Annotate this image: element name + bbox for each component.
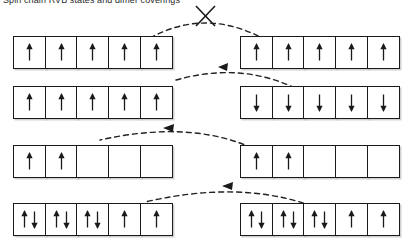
spin-up-arrow-icon — [311, 210, 318, 229]
spin-chain-left[interactable] — [13, 86, 173, 119]
chain-cell[interactable] — [367, 86, 400, 119]
chain-cell[interactable] — [76, 36, 109, 69]
chain-row — [0, 145, 409, 179]
chain-cell[interactable] — [13, 145, 46, 178]
spin-up-arrow-icon — [53, 210, 60, 229]
spin-up-arrow-icon — [89, 93, 96, 112]
chain-cell[interactable] — [13, 36, 46, 69]
diagram-canvas: Spin chain RVB states and dimer covering… — [0, 0, 409, 248]
chain-cell[interactable] — [303, 145, 336, 178]
chain-cell[interactable] — [272, 86, 305, 119]
spin-up-arrow-icon — [58, 152, 65, 171]
chain-cell[interactable] — [76, 145, 109, 178]
chain-cell[interactable] — [240, 203, 273, 236]
chain-cell[interactable] — [335, 86, 368, 119]
chain-cell[interactable] — [303, 36, 336, 69]
spin-up-arrow-icon — [348, 43, 355, 62]
spin-chain-right[interactable] — [240, 86, 400, 119]
spin-down-arrow-icon — [285, 93, 292, 112]
spin-chain-right[interactable] — [240, 145, 400, 178]
spin-arrow-group — [248, 204, 265, 235]
chain-cell[interactable] — [335, 145, 368, 178]
spin-arrow-group — [21, 204, 38, 235]
spin-arrow-group — [26, 37, 33, 68]
spin-arrow-group — [380, 87, 387, 118]
chain-cell[interactable] — [335, 203, 368, 236]
chain-cell[interactable] — [76, 203, 109, 236]
chain-cell[interactable] — [240, 86, 273, 119]
spin-arrow-group — [316, 37, 323, 68]
spin-arrow-group — [26, 146, 33, 177]
spin-arrow-group — [285, 37, 292, 68]
chain-cell[interactable] — [140, 145, 173, 178]
spin-arrow-group — [121, 37, 128, 68]
spin-up-arrow-icon — [316, 43, 323, 62]
spin-up-arrow-icon — [153, 210, 160, 229]
chain-cell[interactable] — [367, 203, 400, 236]
chain-cell[interactable] — [303, 203, 336, 236]
spin-up-arrow-icon — [348, 210, 355, 229]
chain-cell[interactable] — [108, 36, 141, 69]
spin-down-arrow-icon — [348, 93, 355, 112]
chain-cell[interactable] — [140, 36, 173, 69]
spin-up-arrow-icon — [285, 152, 292, 171]
spin-up-arrow-icon — [121, 210, 128, 229]
spin-chain-right[interactable] — [240, 203, 400, 236]
spin-arrow-group — [316, 87, 323, 118]
chain-cell[interactable] — [108, 145, 141, 178]
spin-arrow-group — [153, 204, 160, 235]
spin-chain-left[interactable] — [13, 36, 173, 69]
chain-cell[interactable] — [272, 145, 305, 178]
spin-arrow-group — [253, 146, 260, 177]
chain-cell[interactable] — [108, 203, 141, 236]
chain-cell[interactable] — [367, 36, 400, 69]
chain-cell[interactable] — [140, 203, 173, 236]
spin-arrow-group — [26, 87, 33, 118]
chain-cell[interactable] — [45, 145, 78, 178]
chain-row — [0, 86, 409, 120]
chain-cell[interactable] — [303, 86, 336, 119]
chain-cell[interactable] — [335, 36, 368, 69]
spin-arrow-group — [153, 37, 160, 68]
chain-cell[interactable] — [45, 36, 78, 69]
spin-up-arrow-icon — [285, 43, 292, 62]
spin-down-arrow-icon — [290, 210, 297, 229]
spin-chain-left[interactable] — [13, 203, 173, 236]
spin-up-arrow-icon — [26, 43, 33, 62]
spin-up-arrow-icon — [153, 93, 160, 112]
spin-down-arrow-icon — [321, 210, 328, 229]
spin-down-arrow-icon — [63, 210, 70, 229]
chain-row — [0, 36, 409, 70]
spin-arrow-group — [58, 37, 65, 68]
spin-arrow-group — [58, 87, 65, 118]
chain-cell[interactable] — [367, 145, 400, 178]
chain-cell[interactable] — [240, 145, 273, 178]
spin-arrow-group — [280, 204, 297, 235]
spin-arrow-group — [153, 87, 160, 118]
chain-cell[interactable] — [140, 86, 173, 119]
spin-down-arrow-icon — [380, 93, 387, 112]
spin-chain-left[interactable] — [13, 145, 173, 178]
chain-cell[interactable] — [13, 86, 46, 119]
spin-up-arrow-icon — [380, 43, 387, 62]
spin-down-arrow-icon — [258, 210, 265, 229]
arrowhead-left-icon — [163, 124, 174, 132]
connector-1 — [150, 6, 262, 38]
spin-arrow-group — [53, 204, 70, 235]
spin-arrow-group — [380, 204, 387, 235]
spin-down-arrow-icon — [316, 93, 323, 112]
chain-cell[interactable] — [13, 203, 46, 236]
chain-cell[interactable] — [272, 36, 305, 69]
spin-up-arrow-icon — [58, 43, 65, 62]
chain-cell[interactable] — [45, 86, 78, 119]
spin-arrow-group — [285, 146, 292, 177]
spin-up-arrow-icon — [153, 43, 160, 62]
spin-up-arrow-icon — [253, 152, 260, 171]
chain-cell[interactable] — [240, 36, 273, 69]
chain-cell[interactable] — [45, 203, 78, 236]
chain-cell[interactable] — [272, 203, 305, 236]
spin-up-arrow-icon — [121, 93, 128, 112]
chain-cell[interactable] — [108, 86, 141, 119]
spin-chain-right[interactable] — [240, 36, 400, 69]
chain-cell[interactable] — [76, 86, 109, 119]
